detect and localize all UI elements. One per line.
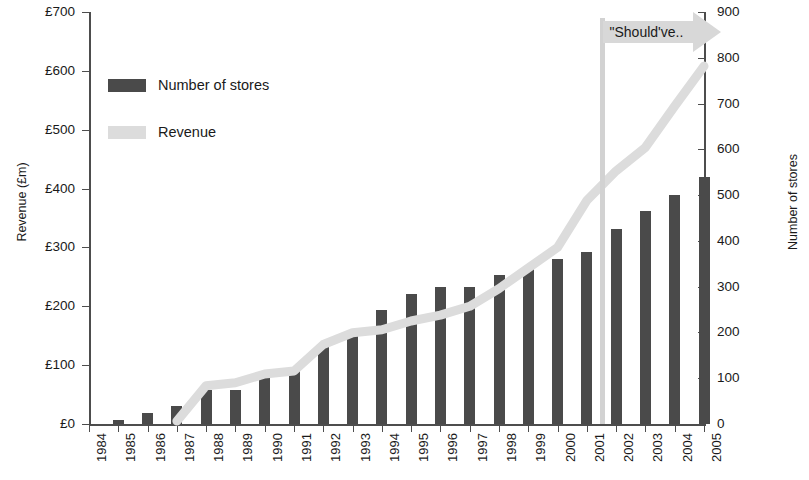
x-axis-label-2004: 2004 bbox=[680, 433, 695, 462]
legend-label: Revenue bbox=[158, 124, 216, 140]
marker-line-2001 bbox=[600, 18, 605, 424]
x-axis-label-1984: 1984 bbox=[94, 433, 109, 462]
x-axis-label-2005: 2005 bbox=[709, 433, 724, 462]
legend-item-stores: Number of stores bbox=[108, 76, 269, 94]
chart-legend: Number of storesRevenue bbox=[108, 76, 269, 170]
x-axis-label-1997: 1997 bbox=[475, 433, 490, 462]
x-axis-label-1991: 1991 bbox=[299, 433, 314, 462]
x-axis-label-1994: 1994 bbox=[387, 433, 402, 462]
x-axis-label-1998: 1998 bbox=[504, 433, 519, 462]
x-axis-label-1988: 1988 bbox=[211, 433, 226, 462]
x-axis-label-1985: 1985 bbox=[123, 433, 138, 462]
legend-item-revenue: Revenue bbox=[108, 123, 269, 141]
legend-label: Number of stores bbox=[158, 77, 269, 93]
legend-swatch-icon bbox=[108, 126, 146, 139]
revenue-stores-chart: Revenue (£m) Number of stores £0£100£200… bbox=[0, 0, 809, 480]
x-axis-label-2002: 2002 bbox=[621, 433, 636, 462]
x-axis-label-1990: 1990 bbox=[270, 433, 285, 462]
x-axis-label-1992: 1992 bbox=[328, 433, 343, 462]
x-axis-label-1995: 1995 bbox=[416, 433, 431, 462]
x-axis-label-2003: 2003 bbox=[650, 433, 665, 462]
callout-text: "Should've.. bbox=[610, 24, 684, 40]
x-axis-label-1987: 1987 bbox=[182, 433, 197, 462]
x-axis-label-1993: 1993 bbox=[358, 433, 373, 462]
legend-swatch-icon bbox=[108, 79, 146, 92]
x-axis-label-2000: 2000 bbox=[563, 433, 578, 462]
x-axis-label-1996: 1996 bbox=[445, 433, 460, 462]
x-axis-label-1989: 1989 bbox=[240, 433, 255, 462]
x-axis-label-1986: 1986 bbox=[153, 433, 168, 462]
revenue-line-series bbox=[0, 0, 809, 480]
x-axis-label-1999: 1999 bbox=[533, 433, 548, 462]
x-axis-label-2001: 2001 bbox=[592, 433, 607, 462]
